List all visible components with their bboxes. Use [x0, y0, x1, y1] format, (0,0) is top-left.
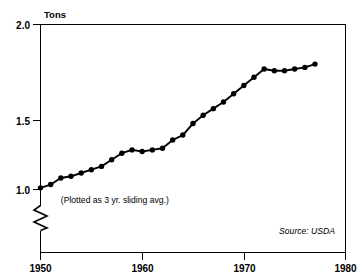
line-chart: Tons 2.0 1.5 1.0 1950 1960 1970 1980 (Pl…: [0, 0, 359, 278]
data-point: [312, 61, 317, 66]
data-point: [38, 185, 43, 190]
data-point: [292, 66, 297, 71]
data-point: [99, 164, 104, 169]
x-tick-label-1960: 1960: [131, 263, 154, 274]
data-point: [170, 137, 175, 142]
data-point: [58, 175, 63, 180]
y-tick-label-1.5: 1.5: [16, 116, 30, 127]
data-point: [160, 146, 165, 151]
y-tick-label-2.0: 2.0: [16, 20, 30, 31]
data-point: [109, 157, 114, 162]
y-axis-title: Tons: [44, 9, 66, 20]
annotation-method-note: (Plotted as 3 yr. sliding avg.): [61, 195, 169, 205]
annotation-source: Source: USDA: [279, 226, 335, 236]
data-point: [221, 99, 226, 104]
data-point: [272, 68, 277, 73]
data-point: [119, 151, 124, 156]
x-tick-label-1970: 1970: [233, 263, 256, 274]
data-point: [180, 132, 185, 137]
data-point: [241, 83, 246, 88]
data-point: [231, 91, 236, 96]
data-point: [139, 149, 144, 154]
data-point: [200, 113, 205, 118]
data-point: [282, 68, 287, 73]
data-point: [211, 106, 216, 111]
data-point: [48, 182, 53, 187]
data-point: [68, 174, 73, 179]
data-point: [251, 75, 256, 80]
chart-background: [0, 0, 359, 278]
chart-container: Tons 2.0 1.5 1.0 1950 1960 1970 1980 (Pl…: [0, 0, 359, 278]
x-tick-label-1980: 1980: [334, 263, 357, 274]
data-point: [190, 121, 195, 126]
data-point: [89, 167, 94, 172]
data-point: [302, 65, 307, 70]
data-point: [261, 66, 266, 71]
data-point: [129, 147, 134, 152]
data-point: [150, 147, 155, 152]
y-tick-label-1.0: 1.0: [16, 185, 30, 196]
x-tick-label-1950: 1950: [29, 263, 52, 274]
data-point: [78, 170, 83, 175]
